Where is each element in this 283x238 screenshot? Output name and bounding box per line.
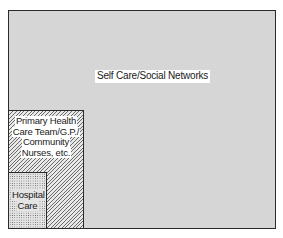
primary-care-label: Primary Health Care Team/G.P./ Community… bbox=[11, 116, 81, 158]
self-care-label: Self Care/Social Networks bbox=[95, 70, 210, 83]
primary-care-label-line: Community bbox=[22, 137, 70, 148]
hospital-care-label: Hospital Care bbox=[11, 190, 44, 211]
hospital-care-label-line: Hospital bbox=[11, 190, 46, 201]
primary-care-label-line: Nurses, etc. bbox=[21, 148, 71, 159]
hospital-care-label-line: Care bbox=[17, 201, 39, 212]
primary-care-label-line: Primary Health bbox=[15, 116, 77, 127]
